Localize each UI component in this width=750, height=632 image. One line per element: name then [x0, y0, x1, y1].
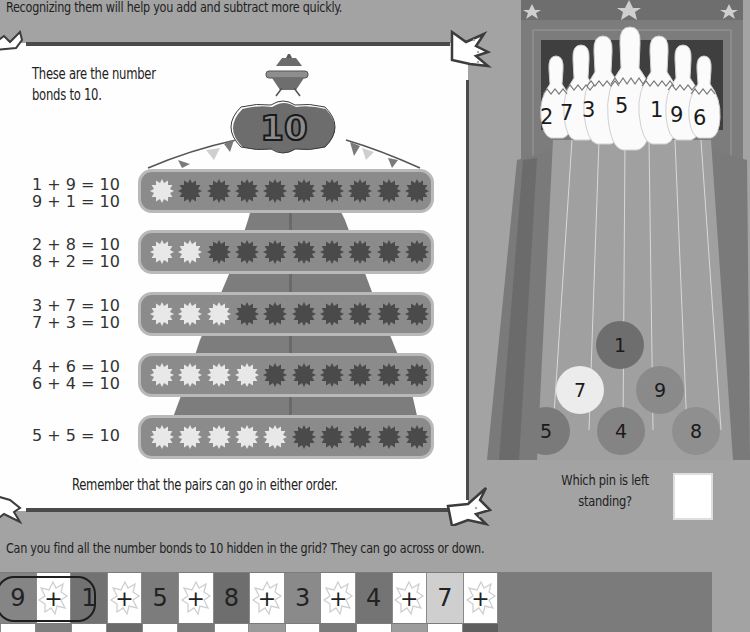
dark-counter-icon — [348, 363, 372, 387]
dark-counter-icon — [292, 425, 316, 449]
dark-counter-icon — [292, 363, 316, 387]
light-counter-icon — [207, 425, 231, 449]
counter — [403, 300, 431, 328]
dark-counter-icon — [207, 240, 231, 264]
counter — [261, 361, 289, 389]
counter — [346, 423, 374, 451]
grid-row-2 — [0, 624, 498, 632]
grid-cell-number[interactable]: 5 — [142, 573, 178, 623]
grid-cell-number[interactable] — [178, 624, 214, 632]
dark-counter-icon — [207, 179, 231, 203]
counter — [289, 177, 317, 205]
counter — [374, 423, 402, 451]
counter — [318, 300, 346, 328]
counter — [205, 177, 233, 205]
grid-cell-plus[interactable]: + — [249, 573, 285, 623]
bowling-lane-illustration-icon — [477, 0, 750, 460]
grid-cell-plus[interactable] — [285, 624, 321, 632]
grid-prompt: Can you find all the number bonds to 10 … — [6, 540, 484, 556]
counter — [346, 300, 374, 328]
light-counter-icon — [178, 363, 202, 387]
pin-label: 9 — [670, 103, 683, 127]
dark-counter-icon — [320, 363, 344, 387]
dark-counter-icon — [377, 179, 401, 203]
pin-label: 7 — [560, 101, 573, 125]
pin-label: 2 — [540, 105, 553, 129]
counter — [374, 238, 402, 266]
dark-counter-icon — [235, 302, 259, 326]
counter-strip-1 — [138, 169, 434, 213]
badge-number: 10 — [228, 106, 340, 150]
light-counter-icon — [207, 302, 231, 326]
counter — [403, 177, 431, 205]
grid-cell-number[interactable] — [392, 624, 428, 632]
grid-cell-plus[interactable]: + — [320, 573, 356, 623]
dark-counter-icon — [348, 302, 372, 326]
counter — [233, 423, 261, 451]
light-counter-icon — [178, 425, 202, 449]
dark-counter-icon — [178, 179, 202, 203]
counter — [261, 423, 289, 451]
equation-group-2: 2 + 8 = 10 8 + 2 = 10 — [32, 236, 120, 270]
dark-counter-icon — [320, 302, 344, 326]
grid-cell-plus[interactable] — [214, 624, 250, 632]
grid-cell-plus[interactable] — [356, 624, 392, 632]
grid-cell-number[interactable] — [107, 624, 143, 632]
pin-label: 5 — [615, 94, 628, 118]
grid-cell-plus[interactable] — [71, 624, 107, 632]
counter — [346, 238, 374, 266]
bowling-ball: 1 — [596, 321, 644, 369]
answer-box-input[interactable] — [673, 473, 713, 520]
grid-cell-plus[interactable]: + — [392, 573, 428, 623]
pin-label: 6 — [693, 106, 706, 130]
dark-counter-icon — [348, 240, 372, 264]
counter-strip-2 — [138, 230, 434, 274]
grid-cell-plus[interactable] — [0, 624, 36, 632]
dark-counter-icon — [405, 240, 429, 264]
grid-cell-number[interactable] — [249, 624, 285, 632]
grid-cell-number[interactable] — [36, 624, 72, 632]
counter — [374, 300, 402, 328]
card-bottom-border — [26, 508, 450, 512]
grid-cell-number[interactable]: 7 — [427, 573, 463, 623]
light-counter-icon — [235, 363, 259, 387]
grid-cell-number[interactable]: 4 — [356, 573, 392, 623]
counter — [261, 238, 289, 266]
remember-text: Remember that the pairs can go in either… — [72, 476, 338, 494]
light-counter-icon — [263, 425, 287, 449]
equation-group-1: 1 + 9 = 10 9 + 1 = 10 — [32, 176, 120, 210]
grid-cell-plus[interactable] — [427, 624, 463, 632]
dark-counter-icon — [405, 179, 429, 203]
bowling-ball: 9 — [636, 366, 684, 414]
dark-counter-icon — [235, 179, 259, 203]
grid-cell-plus[interactable]: + — [178, 573, 214, 623]
counter-strip-4 — [138, 353, 434, 397]
counter — [176, 177, 204, 205]
pin-label: 1 — [650, 98, 663, 122]
grid-cell-number[interactable]: 3 — [285, 573, 321, 623]
bowling-ball: 8 — [672, 407, 720, 455]
counter — [289, 423, 317, 451]
counter — [374, 361, 402, 389]
pin-label: 3 — [582, 98, 595, 122]
counter — [403, 238, 431, 266]
counter — [289, 238, 317, 266]
grid-cell-plus[interactable] — [142, 624, 178, 632]
grid-cell-plus[interactable]: + — [463, 573, 499, 623]
grid-cell-number[interactable] — [320, 624, 356, 632]
counter — [233, 177, 261, 205]
dark-counter-icon — [377, 240, 401, 264]
light-counter-icon — [178, 240, 202, 264]
counter — [346, 177, 374, 205]
grid-cell-plus[interactable]: + — [107, 573, 143, 623]
grid-cell-number[interactable] — [463, 624, 499, 632]
light-counter-icon — [150, 425, 174, 449]
grid-cell-number[interactable]: 8 — [214, 573, 250, 623]
dark-counter-icon — [320, 240, 344, 264]
dark-counter-icon — [263, 363, 287, 387]
counter — [318, 361, 346, 389]
counter-strip-5 — [138, 415, 434, 459]
equation-group-3: 3 + 7 = 10 7 + 3 = 10 — [32, 297, 120, 331]
dark-counter-icon — [263, 240, 287, 264]
light-counter-icon — [150, 240, 174, 264]
